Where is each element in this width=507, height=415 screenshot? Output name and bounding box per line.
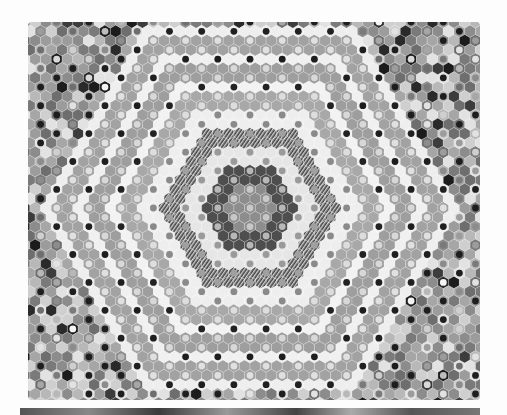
hexagon-quilt — [0, 0, 507, 415]
floor-edge-strip — [20, 408, 480, 415]
quilt-photograph: Grayscale photograph of a hand-pieced he… — [0, 0, 507, 415]
